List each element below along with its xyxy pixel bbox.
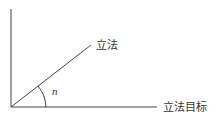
legislation-label: 立法	[96, 40, 118, 51]
angle-arc	[38, 86, 46, 107]
angle-n-label: n	[52, 86, 58, 97]
legislation-angle-diagram: 立法 立法目标 n	[0, 0, 216, 125]
legislative-goal-label: 立法目标	[163, 102, 207, 113]
diagonal-line-legislation	[11, 45, 91, 107]
